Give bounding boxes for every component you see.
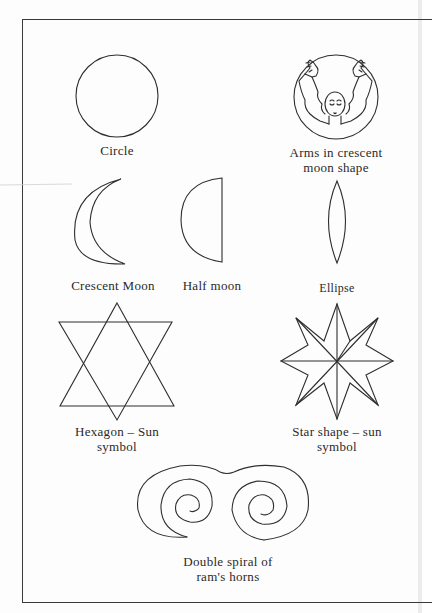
label-half-moon: Half moon — [172, 278, 252, 293]
hexagon-sun-symbol-icon — [59, 303, 174, 420]
label-circle: Circle — [77, 143, 157, 158]
scan-artifact-line — [0, 184, 72, 185]
half-moon-symbol-icon — [181, 178, 222, 262]
label-ellipse: Ellipse — [297, 281, 377, 296]
circle-symbol-icon — [76, 55, 158, 137]
label-crescent-moon: Crescent Moon — [58, 278, 168, 293]
arms-crescent-symbol-icon — [294, 55, 378, 139]
crescent-moon-symbol-icon — [75, 179, 125, 264]
label-star: Star shape – sun symbol — [272, 424, 402, 454]
label-hexagon: Hexagon – Sun symbol — [57, 424, 177, 454]
label-arms-crescent: Arms in crescent moon shape — [276, 145, 396, 175]
double-spiral-symbol-icon — [138, 465, 309, 540]
label-double-spiral: Double spiral of ram's horns — [163, 554, 293, 584]
star-sun-symbol-icon — [281, 304, 393, 419]
ellipse-symbol-icon — [329, 181, 346, 263]
